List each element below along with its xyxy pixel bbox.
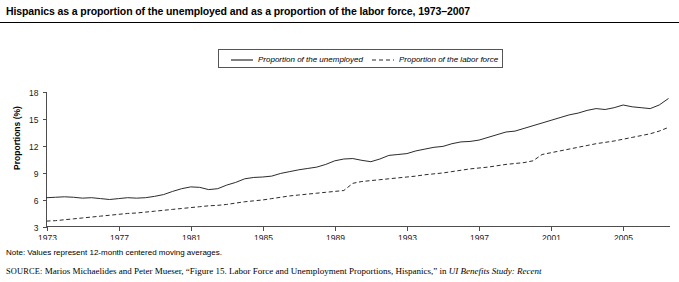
y-tick-label: 6 bbox=[34, 196, 39, 206]
legend-swatch-dashed-icon bbox=[372, 56, 394, 64]
y-tick-label: 9 bbox=[34, 169, 39, 179]
x-tick-label: 2001 bbox=[542, 233, 561, 241]
source-text: Marios Michaelides and Peter Mueser, “Fi… bbox=[45, 266, 447, 276]
legend-label-unemployed: Proportion of the unemployed bbox=[258, 55, 363, 64]
y-tick-label: 15 bbox=[29, 115, 39, 125]
x-tick-group: 197319771981198519891993199720012005 bbox=[38, 227, 633, 241]
legend-item-unemployed: Proportion of the unemployed bbox=[231, 53, 363, 66]
x-tick-label: 2005 bbox=[614, 233, 633, 241]
chart-source: SOURCE: Marios Michaelides and Peter Mue… bbox=[6, 266, 541, 276]
chart-note: Note: Values represent 12-month centered… bbox=[6, 248, 222, 257]
x-tick-label: 1973 bbox=[38, 233, 57, 241]
series-line-unemployed bbox=[47, 99, 669, 200]
source-prefix: SOURCE: bbox=[6, 267, 42, 276]
y-tick-group: 369121518 bbox=[29, 88, 46, 233]
page-title: Hispanics as a proportion of the unemplo… bbox=[6, 5, 470, 17]
x-tick-label: 1993 bbox=[398, 233, 417, 241]
y-tick-label: 12 bbox=[29, 142, 39, 152]
x-tick-label: 1997 bbox=[470, 233, 489, 241]
y-axis-title: Proportions (%) bbox=[12, 93, 22, 183]
legend-item-labor-force: Proportion of the labor force bbox=[372, 53, 498, 66]
x-tick-label: 1985 bbox=[254, 233, 273, 241]
legend-label-labor-force: Proportion of the labor force bbox=[399, 55, 498, 64]
source-title-italic: UI Benefits Study: Recent bbox=[449, 266, 542, 276]
title-divider bbox=[0, 22, 679, 23]
x-tick-label: 1981 bbox=[182, 233, 201, 241]
legend-swatch-solid-icon bbox=[231, 56, 253, 64]
y-tick-label: 18 bbox=[29, 88, 39, 98]
series-line-labor-force bbox=[47, 128, 669, 222]
figure-container: Hispanics as a proportion of the unemplo… bbox=[0, 0, 679, 282]
chart-legend: Proportion of the unemployed Proportion … bbox=[218, 49, 503, 68]
y-tick-label: 3 bbox=[34, 223, 39, 233]
x-tick-label: 1977 bbox=[110, 233, 129, 241]
x-tick-label: 1989 bbox=[326, 233, 345, 241]
